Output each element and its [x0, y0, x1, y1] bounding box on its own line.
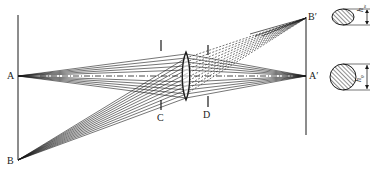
label-d: D [203, 110, 210, 120]
diagram-canvas [0, 0, 375, 174]
label-b-prime: B′ [308, 12, 317, 22]
offaxis-solid-rays [250, 18, 306, 36]
label-c: C [157, 113, 164, 123]
label-a-prime: A′ [309, 71, 318, 81]
offaxis-ray-bundle-image-side [186, 18, 306, 94]
label-h0: h0 [355, 76, 365, 83]
lens [182, 52, 190, 100]
label-b: B [7, 156, 14, 166]
label-hw: hw [357, 5, 367, 12]
vignetting-diagram: A B B′ A′ C D hw h0 [0, 0, 375, 174]
label-a: A [7, 71, 14, 81]
